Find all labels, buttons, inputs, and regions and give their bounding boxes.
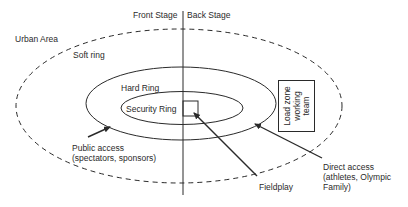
load-zone-line1: Load zone — [282, 86, 292, 126]
public-access-arrow — [88, 127, 110, 137]
soft-ring-label: Soft ring — [73, 50, 105, 60]
fieldplay-square — [183, 101, 198, 116]
public-access-label: Public access (spectators, sponsors) — [72, 143, 156, 163]
load-zone-text: Load zone working team — [282, 86, 311, 126]
direct-access-line3: Family) — [323, 182, 391, 192]
fieldplay-arrow — [194, 113, 257, 176]
direct-access-label: Direct access (athletes, Olympic Family) — [323, 162, 391, 192]
direct-access-line2: (athletes, Olympic — [323, 172, 391, 182]
fieldplay-label: Fieldplay — [259, 182, 293, 192]
load-zone-box: Load zone working team — [278, 80, 315, 132]
urban-area-label: Urban Area — [15, 34, 58, 44]
front-stage-label: Front Stage — [133, 10, 177, 20]
security-ring-label: Security Ring — [126, 104, 177, 114]
hard-ring-ellipse — [86, 67, 276, 140]
load-zone-line3: team — [301, 86, 311, 126]
public-access-line1: Public access — [72, 143, 156, 153]
hard-ring-label: Hard Ring — [121, 83, 159, 93]
public-access-line2: (spectators, sponsors) — [72, 153, 156, 163]
direct-access-line1: Direct access — [323, 162, 391, 172]
back-stage-label: Back Stage — [187, 10, 230, 20]
